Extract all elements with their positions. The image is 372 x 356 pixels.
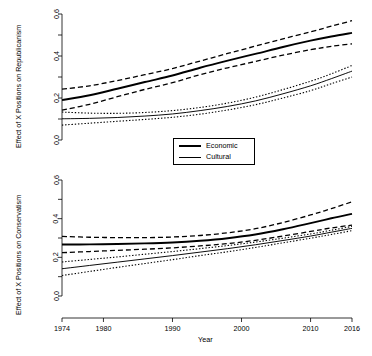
legend-label-economic: Economic <box>206 142 238 150</box>
x-tick-label: 1974 <box>54 324 70 333</box>
figure-root: 0.00.20.40.6 Effect of X Positions on Re… <box>0 0 372 356</box>
y-tick-label: 0.4 <box>52 214 61 224</box>
x-tick-label: 1990 <box>164 324 180 333</box>
y-tick-label: 0.0 <box>52 291 61 301</box>
x-tick-label: 2010 <box>303 324 319 333</box>
y-tick-label: 0.2 <box>52 252 61 262</box>
y-tick-label: 0.0 <box>52 135 61 145</box>
panel-conservatism: 0.00.20.40.6197419801990200020102016 Eff… <box>0 172 372 356</box>
series-line <box>62 202 352 238</box>
y-axis-label-bottom: Effect of X Positions on Conservatism <box>14 195 23 315</box>
x-tick-label: 2000 <box>234 324 250 333</box>
y-tick-label: 0.2 <box>52 93 61 103</box>
legend-entry-economic: Economic <box>179 142 238 150</box>
x-axis-label: Year <box>198 335 213 344</box>
series-line <box>62 44 352 110</box>
x-tick-label: 1980 <box>95 324 111 333</box>
plot-area-bottom: 0.00.20.40.6197419801990200020102016 <box>0 172 372 356</box>
y-axis-label-top: Effect of X Positions on Republicanism <box>14 25 23 148</box>
y-tick-label: 0.6 <box>52 175 61 185</box>
legend-entry-cultural: Cultural <box>179 153 231 161</box>
series-line <box>62 71 352 119</box>
thin-line-icon <box>179 157 201 158</box>
series-line <box>62 33 352 100</box>
series-line <box>62 21 352 89</box>
series-line <box>62 214 352 245</box>
thick-line-icon <box>179 145 201 147</box>
series-line <box>62 65 352 113</box>
y-tick-label: 0.6 <box>52 9 61 19</box>
legend: Economic Cultural <box>173 138 255 165</box>
y-tick-label: 0.4 <box>52 51 61 61</box>
series-line <box>62 225 352 253</box>
legend-label-cultural: Cultural <box>206 153 231 161</box>
x-tick-label: 2016 <box>344 324 360 333</box>
